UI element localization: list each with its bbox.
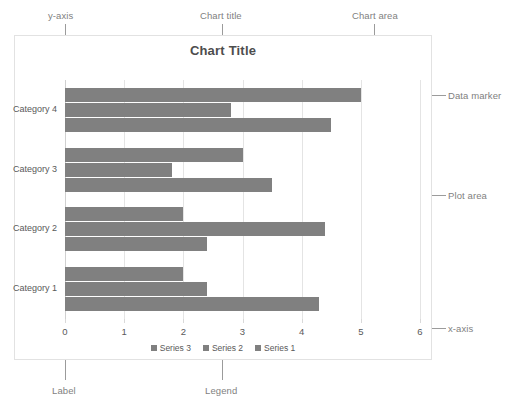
legend-label: Series 1 (264, 343, 295, 353)
annotation-chart-title: Chart title (200, 10, 242, 21)
tick-mark-x-2 (183, 319, 184, 323)
data-marker-bar[interactable] (65, 118, 331, 132)
x-tick-label-3: 3 (240, 326, 245, 337)
tick-mark-x-0 (65, 319, 66, 323)
plot-area[interactable]: 0123456Category 1Category 2Category 3Cat… (65, 80, 420, 319)
chart-legend[interactable]: Series 3Series 2Series 1 (15, 343, 431, 353)
annotation-plot-area: Plot area (448, 190, 487, 201)
data-marker-bar[interactable] (65, 222, 325, 236)
tick-mark-x-1 (124, 319, 125, 323)
legend-item[interactable]: Series 2 (203, 343, 243, 353)
gridline-x-6 (420, 80, 421, 319)
legend-swatch-icon (151, 345, 157, 351)
tick-mark-x-6 (420, 319, 421, 323)
bar-group: Category 3 (65, 148, 420, 192)
data-marker-bar[interactable] (65, 297, 319, 311)
annotation-y-axis: y-axis (48, 10, 73, 21)
legend-item[interactable]: Series 3 (151, 343, 191, 353)
y-axis-category-label: Category 2 (13, 223, 57, 233)
chart-title[interactable]: Chart Title (15, 43, 431, 58)
annotation-chart-area: Chart area (352, 10, 398, 21)
chart-area[interactable]: Chart Title 0123456Category 1Category 2C… (14, 35, 432, 360)
data-marker-bar[interactable] (65, 207, 183, 221)
y-axis-category-label: Category 3 (13, 164, 57, 174)
x-tick-label-5: 5 (358, 326, 363, 337)
x-tick-label-2: 2 (181, 326, 186, 337)
legend-label: Series 3 (160, 343, 191, 353)
bar-group: Category 2 (65, 207, 420, 251)
legend-item[interactable]: Series 1 (255, 343, 295, 353)
annotation-data-marker: Data marker (448, 90, 501, 101)
data-marker-bar[interactable] (65, 282, 207, 296)
tick-mark-x-5 (361, 319, 362, 323)
legend-swatch-icon (203, 345, 209, 351)
data-marker-bar[interactable] (65, 237, 207, 251)
y-axis-category-label: Category 4 (13, 104, 57, 114)
annotation-x-axis: x-axis (448, 323, 473, 334)
bar-group: Category 1 (65, 267, 420, 311)
data-marker-bar[interactable] (65, 178, 272, 192)
x-tick-label-6: 6 (417, 326, 422, 337)
data-marker-bar[interactable] (65, 88, 361, 102)
data-marker-bar[interactable] (65, 148, 243, 162)
data-marker-bar[interactable] (65, 267, 183, 281)
tick-mark-x-4 (302, 319, 303, 323)
x-tick-label-1: 1 (122, 326, 127, 337)
data-marker-bar[interactable] (65, 103, 231, 117)
legend-label: Series 2 (212, 343, 243, 353)
y-axis-category-label: Category 1 (13, 283, 57, 293)
bar-group: Category 4 (65, 88, 420, 132)
tick-mark-x-3 (243, 319, 244, 323)
x-tick-label-0: 0 (62, 326, 67, 337)
data-marker-bar[interactable] (65, 163, 172, 177)
legend-swatch-icon (255, 345, 261, 351)
annotation-legend: Legend (205, 385, 237, 396)
x-tick-label-4: 4 (299, 326, 304, 337)
annotation-label: Label (52, 385, 76, 396)
